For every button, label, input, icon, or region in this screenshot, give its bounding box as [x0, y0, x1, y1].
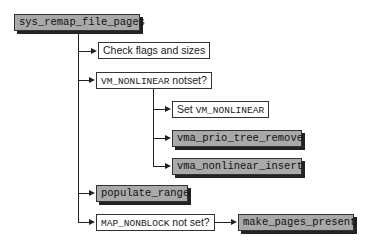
vma-prio-tree-remove-box: vma_prio_tree_remove	[172, 130, 302, 147]
condition-text: not set?	[169, 216, 209, 228]
map-nonblock-condition-box: MAP_NONBLOCK not set?	[96, 214, 215, 231]
condition-code: VM_NONLINEAR	[101, 76, 169, 87]
make-pages-present-box: make_pages_present	[238, 214, 354, 231]
populate-range-box: populate_range	[96, 185, 188, 202]
main-connector	[78, 31, 79, 223]
arrow-icon	[91, 48, 97, 54]
connector	[214, 222, 232, 223]
set-code: VM_NONLINEAR	[196, 105, 264, 116]
root-function-box: sys_remap_file_pages	[14, 14, 140, 31]
connector	[78, 51, 92, 52]
vma-nonlinear-insert-box: vma_nonlinear_insert	[172, 158, 302, 175]
arrow-icon	[89, 77, 95, 83]
arrow-icon	[231, 219, 237, 225]
arrow-icon	[89, 219, 95, 225]
condition-text: notset?	[169, 74, 206, 86]
set-vm-nonlinear-box: Set VM_NONLINEAR	[172, 101, 269, 118]
arrow-icon	[165, 135, 171, 141]
arrow-icon	[165, 163, 171, 169]
check-flags-box: Check flags and sizes	[98, 42, 210, 59]
arrow-icon	[89, 190, 95, 196]
inner-connector	[153, 89, 154, 167]
set-text: Set	[177, 103, 196, 115]
vm-nonlinear-condition-box: VM_NONLINEAR notset?	[96, 72, 212, 89]
arrow-icon	[165, 106, 171, 112]
condition-code: MAP_NONBLOCK	[101, 218, 169, 229]
